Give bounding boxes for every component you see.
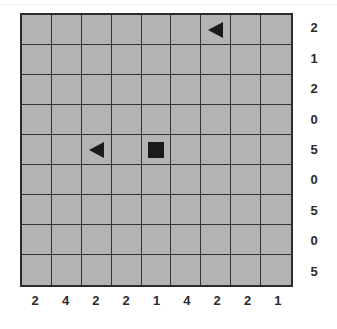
column-clue-6: 2 [209,293,225,308]
grid-cell-r2-c4[interactable] [142,75,172,105]
grid-cell-r7-c1[interactable] [52,225,82,255]
grid-cell-r7-c4[interactable] [142,225,172,255]
grid-cell-r8-c3[interactable] [112,255,142,285]
grid-cell-r2-c3[interactable] [112,75,142,105]
grid-cell-r0-c6[interactable] [201,15,231,45]
row-clue-1: 1 [306,51,322,66]
grid-cell-r8-c4[interactable] [142,255,172,285]
grid-cell-r4-c3[interactable] [112,135,142,165]
grid-cell-r3-c0[interactable] [22,105,52,135]
grid-cell-r2-c5[interactable] [171,75,201,105]
grid-cell-r2-c6[interactable] [201,75,231,105]
row-clue-7: 0 [306,233,322,248]
grid-cell-r8-c6[interactable] [201,255,231,285]
top-divider [0,4,337,5]
grid-cell-r7-c0[interactable] [22,225,52,255]
grid-cell-r5-c2[interactable] [82,165,112,195]
grid-cell-r2-c2[interactable] [82,75,112,105]
grid-cell-r2-c8[interactable] [261,75,291,105]
grid-cell-r4-c8[interactable] [261,135,291,165]
grid-cell-r1-c7[interactable] [231,45,261,75]
grid-cell-r2-c7[interactable] [231,75,261,105]
grid-cell-r8-c5[interactable] [171,255,201,285]
grid-cell-r0-c3[interactable] [112,15,142,45]
column-clue-0: 2 [27,293,43,308]
grid-cell-r8-c1[interactable] [52,255,82,285]
grid-cell-r7-c5[interactable] [171,225,201,255]
grid-cell-r8-c2[interactable] [82,255,112,285]
grid-cell-r4-c4[interactable] [142,135,172,165]
column-clue-4: 1 [149,293,165,308]
grid-cell-r2-c0[interactable] [22,75,52,105]
grid-cell-r6-c0[interactable] [22,195,52,225]
grid-cell-r1-c2[interactable] [82,45,112,75]
grid-cell-r5-c7[interactable] [231,165,261,195]
row-clue-6: 5 [306,203,322,218]
grid-cell-r4-c5[interactable] [171,135,201,165]
grid-cell-r7-c6[interactable] [201,225,231,255]
grid-cell-r5-c4[interactable] [142,165,172,195]
grid-cell-r5-c6[interactable] [201,165,231,195]
grid-cell-r7-c3[interactable] [112,225,142,255]
grid-cell-r6-c1[interactable] [52,195,82,225]
grid-cell-r5-c0[interactable] [22,165,52,195]
grid-cell-r5-c1[interactable] [52,165,82,195]
grid-cell-r8-c7[interactable] [231,255,261,285]
grid-cell-r1-c5[interactable] [171,45,201,75]
grid-cell-r1-c6[interactable] [201,45,231,75]
column-clue-8: 1 [270,293,286,308]
row-clue-8: 5 [306,264,322,279]
grid-cell-r5-c3[interactable] [112,165,142,195]
grid-cell-r4-c2[interactable] [82,135,112,165]
grid-cell-r3-c8[interactable] [261,105,291,135]
square-piece-icon [148,142,164,158]
grid-cell-r3-c4[interactable] [142,105,172,135]
grid-cell-r6-c7[interactable] [231,195,261,225]
grid-cell-r3-c1[interactable] [52,105,82,135]
grid-cell-r1-c1[interactable] [52,45,82,75]
grid-cell-r0-c1[interactable] [52,15,82,45]
grid-cell-r5-c8[interactable] [261,165,291,195]
grid-cell-r3-c3[interactable] [112,105,142,135]
grid-cell-r4-c1[interactable] [52,135,82,165]
grid-cell-r6-c2[interactable] [82,195,112,225]
grid-cell-r5-c5[interactable] [171,165,201,195]
grid-cell-r7-c8[interactable] [261,225,291,255]
grid-cell-r0-c0[interactable] [22,15,52,45]
grid-cell-r1-c0[interactable] [22,45,52,75]
row-clue-4: 5 [306,142,322,157]
grid-cell-r7-c2[interactable] [82,225,112,255]
grid-cell-r8-c0[interactable] [22,255,52,285]
grid-cell-r2-c1[interactable] [52,75,82,105]
grid-cell-r4-c0[interactable] [22,135,52,165]
column-clue-2: 2 [88,293,104,308]
grid-cell-r1-c8[interactable] [261,45,291,75]
grid-cell-r6-c8[interactable] [261,195,291,225]
grid-cell-r3-c2[interactable] [82,105,112,135]
grid-cell-r8-c8[interactable] [261,255,291,285]
grid-cell-r0-c7[interactable] [231,15,261,45]
grid-cell-r4-c7[interactable] [231,135,261,165]
grid-cell-r1-c3[interactable] [112,45,142,75]
grid-cell-r3-c7[interactable] [231,105,261,135]
grid-cell-r0-c8[interactable] [261,15,291,45]
grid-cell-r3-c6[interactable] [201,105,231,135]
triangle-left-piece-icon [208,22,223,38]
grid-cell-r6-c3[interactable] [112,195,142,225]
grid-cell-r6-c6[interactable] [201,195,231,225]
column-clue-7: 2 [240,293,256,308]
grid-cell-r1-c4[interactable] [142,45,172,75]
row-clue-3: 0 [306,112,322,127]
grid-cell-r3-c5[interactable] [171,105,201,135]
row-clue-5: 0 [306,172,322,187]
grid-cell-r7-c7[interactable] [231,225,261,255]
grid-cell-r0-c4[interactable] [142,15,172,45]
grid-cell-r6-c5[interactable] [171,195,201,225]
puzzle-grid [20,13,293,287]
column-clue-1: 4 [58,293,74,308]
grid-cell-r6-c4[interactable] [142,195,172,225]
grid-cell-r4-c6[interactable] [201,135,231,165]
triangle-left-piece-icon [89,142,104,158]
grid-cell-r0-c2[interactable] [82,15,112,45]
grid-cell-r0-c5[interactable] [171,15,201,45]
